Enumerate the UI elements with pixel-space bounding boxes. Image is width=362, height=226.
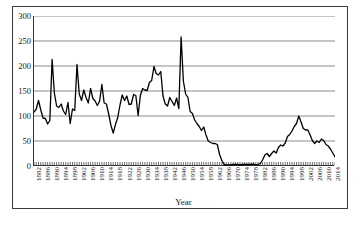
y-tick-label: 200 (5, 62, 31, 70)
x-tick-label: 1982 (262, 167, 269, 181)
x-tick-label: 1942 (172, 167, 179, 181)
x-tick-label: 1966 (226, 167, 233, 181)
x-tick-label: 1974 (244, 167, 251, 181)
x-tick-label: 1950 (190, 167, 197, 181)
x-tick-label: 1882 (36, 167, 43, 181)
x-tick-label: 1978 (253, 167, 260, 181)
x-tick-label: 1910 (99, 167, 106, 181)
y-tick-label: 0 (5, 162, 31, 170)
x-tick-label: 1946 (181, 167, 188, 181)
x-tick-label: 1922 (127, 167, 134, 181)
x-tick-label: 2014 (335, 167, 342, 181)
x-tick-label: 1962 (217, 167, 224, 181)
y-tick-label: 50 (5, 137, 31, 145)
x-tick-label: 1998 (299, 167, 306, 181)
y-tick-label: 250 (5, 37, 31, 45)
plot-area (33, 16, 334, 166)
x-tick-label: 1958 (208, 167, 215, 181)
x-tick-label: 1890 (54, 167, 61, 181)
x-tick-label: 1938 (163, 167, 170, 181)
x-tick-label: 1886 (45, 167, 52, 181)
chart-figure: 050100150200250300 188218861890189418981… (0, 0, 362, 226)
gridlines (34, 16, 335, 141)
x-tick-label: 1914 (108, 167, 115, 181)
x-tick-label: 2002 (308, 167, 315, 181)
x-tick-label: 1926 (136, 167, 143, 181)
x-tick-label: 1990 (280, 167, 287, 181)
x-tick-label: 1934 (154, 167, 161, 181)
x-tick-label: 1954 (199, 167, 206, 181)
y-tick-label: 300 (5, 12, 31, 20)
y-tick-label: 150 (5, 87, 31, 95)
x-tick-label: 1906 (90, 167, 97, 181)
line-chart-svg (34, 16, 335, 166)
x-tick-label: 1970 (235, 167, 242, 181)
x-tick-label: 1894 (63, 167, 70, 181)
x-tick-label: 1902 (81, 167, 88, 181)
x-tick-label: 1918 (117, 167, 124, 181)
x-axis-title: Year (33, 197, 334, 207)
x-tick-label: 1994 (289, 167, 296, 181)
x-tick-label: 1898 (72, 167, 79, 181)
y-tick-label: 100 (5, 112, 31, 120)
x-tick-label: 2006 (317, 167, 324, 181)
x-tick-label: 2010 (326, 167, 333, 181)
x-tick-marks (34, 162, 335, 166)
y-axis: 050100150200250300 (3, 16, 31, 166)
x-tick-label: 1930 (145, 167, 152, 181)
x-axis: 1882188618901894189819021906191019141918… (33, 167, 334, 197)
x-tick-label: 1986 (271, 167, 278, 181)
data-series-line (34, 37, 335, 165)
